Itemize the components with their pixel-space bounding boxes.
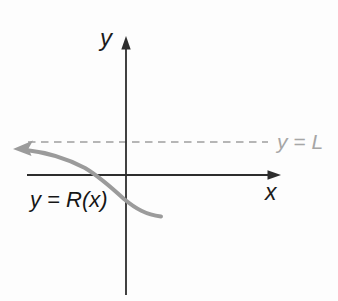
figure-horizontal-asymptote: y x y = L y = R(x) xyxy=(0,0,338,301)
y-axis-arrowhead xyxy=(121,36,130,50)
graph-canvas: y x y = L y = R(x) xyxy=(0,0,338,301)
asymptote-label: y = L xyxy=(275,130,323,153)
x-axis-label: x xyxy=(264,179,278,205)
y-axis-label: y xyxy=(98,24,114,51)
curve-label: y = R(x) xyxy=(28,187,108,212)
curve-arrowhead xyxy=(13,141,33,157)
